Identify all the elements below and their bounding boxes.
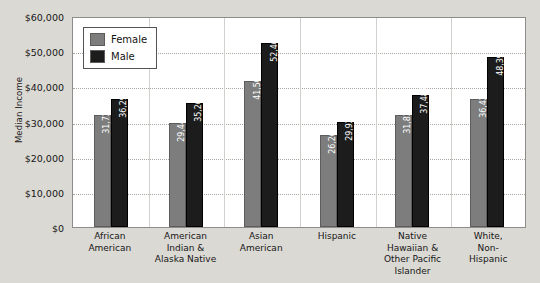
y-axis-tick-labels: $60,000$50,000$40,000$30,000$20,000$10,0…: [0, 0, 68, 283]
bar-group-bars: 31,83737,487: [374, 18, 449, 227]
x-axis-category-line: Other Pacific: [377, 254, 449, 266]
bar-group-bars: 26,26429,925: [299, 18, 374, 227]
bar-group: 26,26429,925: [299, 18, 374, 227]
bar-female[interactable]: 31,724: [94, 115, 111, 227]
bar-group: 31,83737,487: [374, 18, 449, 227]
income-bar-chart: Median Income $60,000$50,000$40,000$30,0…: [0, 0, 540, 283]
y-axis-tick: $0: [52, 223, 64, 234]
bar-female[interactable]: 41,505: [244, 81, 261, 227]
x-axis-category-4: NativeHawaiian &Other PacificIslander: [375, 231, 451, 283]
bar-value-label: 29,925: [345, 113, 354, 140]
bar-male[interactable]: 29,925: [337, 122, 354, 227]
x-axis-category-3: Hispanic: [299, 231, 375, 283]
bar-group: 29,44335,267: [148, 18, 223, 227]
bar-value-label: 36,290: [119, 91, 128, 118]
x-axis-category-line: White,: [452, 231, 524, 243]
plot-area: 31,72436,29029,44335,26741,50552,46326,2…: [72, 17, 526, 228]
x-axis-category-line: Hispanic: [301, 231, 373, 243]
legend-item-male[interactable]: Male: [90, 50, 147, 63]
legend-swatch-icon: [90, 50, 105, 63]
x-axis-category-line: Asian: [225, 231, 297, 243]
bar-male[interactable]: 35,267: [186, 103, 203, 227]
x-axis-category-line: American: [150, 231, 222, 243]
bar-group-bars: 36,42948,395: [450, 18, 525, 227]
x-axis-category-5: White,Non-Hispanic: [450, 231, 526, 283]
bar-value-label: 48,395: [496, 48, 505, 75]
x-axis-category-line: Hispanic: [452, 254, 524, 266]
bar-group: 36,42948,395: [450, 18, 525, 227]
bar-value-label: 35,267: [194, 94, 203, 121]
x-axis-category-line: Indian &: [150, 243, 222, 255]
bar-group: 41,50552,463: [224, 18, 299, 227]
legend-label: Female: [111, 34, 147, 45]
x-axis-category-0: AfricanAmerican: [72, 231, 148, 283]
y-axis-tick: $50,000: [25, 47, 64, 58]
bar-male[interactable]: 36,290: [111, 99, 128, 227]
x-axis-category-line: Islander: [377, 266, 449, 278]
x-axis-category-line: American: [74, 243, 146, 255]
bar-group-bars: 41,50552,463: [224, 18, 299, 227]
x-axis-category-2: AsianAmerican: [223, 231, 299, 283]
y-axis-tick: $40,000: [25, 82, 64, 93]
legend-label: Male: [111, 51, 135, 62]
bar-female[interactable]: 36,429: [470, 99, 487, 227]
bar-value-label: 37,487: [420, 86, 429, 113]
bar-female[interactable]: 26,264: [320, 135, 337, 227]
x-axis-category-line: Native: [377, 231, 449, 243]
bar-female[interactable]: 29,443: [169, 123, 186, 227]
legend-swatch-icon: [90, 33, 105, 46]
legend-item-female[interactable]: Female: [90, 33, 147, 46]
chart-legend: FemaleMale: [83, 27, 157, 69]
y-axis-tick: $20,000: [25, 152, 64, 163]
y-axis-tick: $60,000: [25, 12, 64, 23]
y-axis-tick: $30,000: [25, 117, 64, 128]
bar-group-bars: 29,44335,267: [148, 18, 223, 227]
bar-male[interactable]: 37,487: [412, 95, 429, 227]
bar-male[interactable]: 48,395: [487, 57, 504, 227]
x-axis-category-line: Hawaiian &: [377, 243, 449, 255]
x-axis-category-1: AmericanIndian &Alaska Native: [148, 231, 224, 283]
x-axis-category-line: African: [74, 231, 146, 243]
x-axis-category-line: American: [225, 243, 297, 255]
x-axis-category-line: Alaska Native: [150, 254, 222, 266]
bar-value-label: 52,463: [270, 34, 279, 61]
y-axis-tick: $10,000: [25, 187, 64, 198]
bar-female[interactable]: 31,837: [395, 115, 412, 227]
bar-male[interactable]: 52,463: [261, 43, 278, 227]
x-axis-category-labels: AfricanAmericanAmericanIndian &Alaska Na…: [72, 231, 526, 283]
x-axis-category-line: Non-: [452, 243, 524, 255]
